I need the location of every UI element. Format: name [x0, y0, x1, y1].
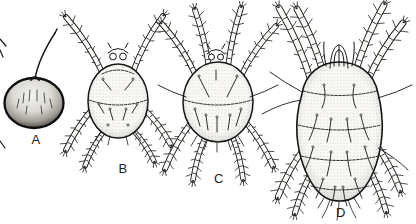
panel-label-larva: B [118, 161, 127, 176]
mite-life-stages-figure: A B C D [0, 0, 416, 224]
larva-figure [59, 9, 177, 173]
panel-label-adult: D [336, 205, 346, 220]
egg-figure [5, 29, 64, 128]
nymph-figure [155, 1, 283, 187]
mite-illustration [0, 0, 416, 224]
adult-figure [262, 0, 412, 220]
edge-fragment-marks [0, 39, 6, 148]
panel-label-egg: A [31, 132, 40, 147]
panel-label-nymph: C [214, 171, 224, 186]
